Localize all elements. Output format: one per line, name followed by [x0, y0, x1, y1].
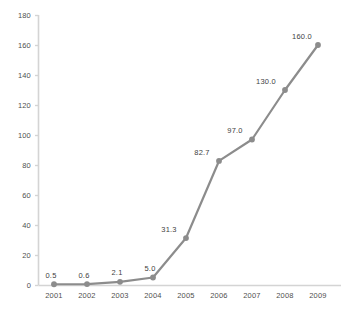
y-tick-label-40: 40	[5, 221, 31, 230]
data-point-2006	[216, 158, 222, 164]
y-tick-label-0: 0	[5, 281, 31, 290]
x-tick-label-2003: 2003	[103, 291, 137, 300]
data-point-2009	[315, 42, 321, 48]
y-tick-label-60: 60	[5, 191, 31, 200]
data-point-2005	[183, 235, 189, 241]
data-point-2007	[249, 137, 255, 143]
data-label-2004: 5.0	[133, 264, 167, 273]
data-label-2008: 130.0	[249, 77, 283, 86]
data-point-2002	[84, 281, 90, 287]
data-label-2003: 2.1	[100, 268, 134, 277]
y-tick-label-80: 80	[5, 161, 31, 170]
x-tick-label-2004: 2004	[136, 291, 170, 300]
y-tick-label-160: 160	[5, 41, 31, 50]
data-label-2005: 31.3	[152, 225, 186, 234]
data-label-2007: 97.0	[218, 126, 252, 135]
y-tick-label-100: 100	[5, 131, 31, 140]
data-label-2006: 82.7	[185, 148, 219, 157]
x-tick-label-2008: 2008	[268, 291, 302, 300]
data-point-2008	[282, 87, 288, 93]
data-label-2009: 160.0	[285, 32, 319, 41]
data-label-2002: 0.6	[67, 271, 101, 280]
x-tick-label-2009: 2009	[301, 291, 335, 300]
data-point-2001	[51, 281, 57, 287]
y-tick-label-180: 180	[5, 11, 31, 20]
x-tick-label-2006: 2006	[202, 291, 236, 300]
y-tick-label-140: 140	[5, 71, 31, 80]
x-tick-label-2005: 2005	[169, 291, 203, 300]
line-chart: 0 20 40 60 80 100 120 140 160 180 2001 2…	[0, 0, 349, 313]
chart-plot-area	[0, 0, 349, 313]
data-label-2001: 0.5	[34, 271, 68, 280]
x-tick-label-2007: 2007	[235, 291, 269, 300]
x-tick-label-2002: 2002	[70, 291, 104, 300]
y-tick-label-120: 120	[5, 101, 31, 110]
y-tick-label-20: 20	[5, 251, 31, 260]
x-tick-label-2001: 2001	[37, 291, 71, 300]
data-point-2003	[117, 279, 123, 285]
data-point-2004	[150, 275, 156, 281]
